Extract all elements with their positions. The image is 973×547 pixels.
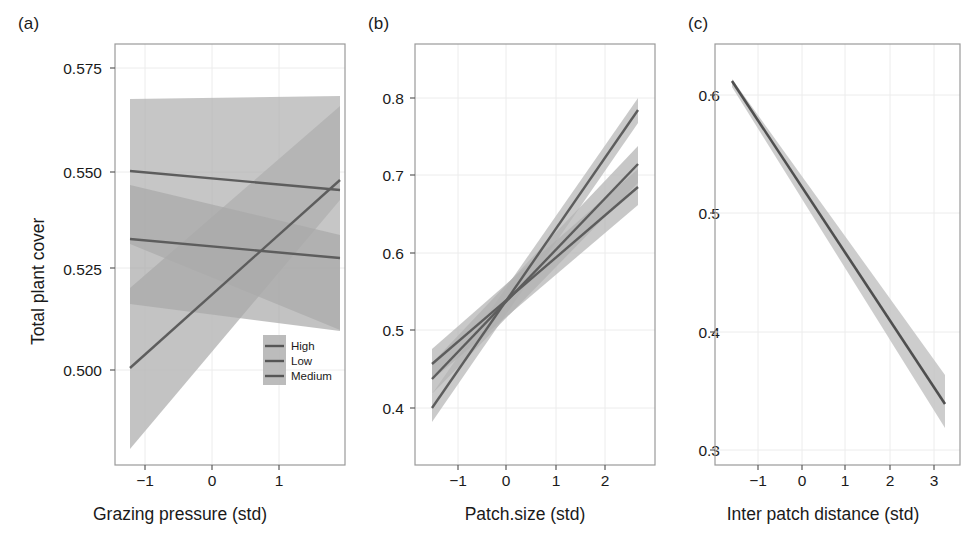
legend-item-medium[interactable]: Medium [291, 370, 332, 382]
panel-b: (b) 0.8 0.7 0.6 0.5 0.4 −1 0 1 2 Patch.s… [350, 0, 670, 547]
panel-c: (c) 0.6 0.5 0.4 0.3 −1 0 1 2 3 Inter pat… [670, 0, 973, 547]
legend-item-low[interactable]: Low [291, 355, 312, 367]
panel-a: (a) Total plant cover 0.575 0.550 0.525 … [0, 0, 350, 547]
figure-panels: (a) Total plant cover 0.575 0.550 0.525 … [0, 0, 973, 547]
line-medium-b [432, 187, 638, 364]
legend-item-high[interactable]: High [291, 340, 315, 352]
panel-b-plot [350, 0, 670, 547]
line-high-b [432, 110, 638, 408]
line-c [732, 81, 945, 404]
line-low-b [432, 164, 638, 379]
panel-a-plot [0, 0, 350, 547]
panel-c-plot [670, 0, 973, 547]
